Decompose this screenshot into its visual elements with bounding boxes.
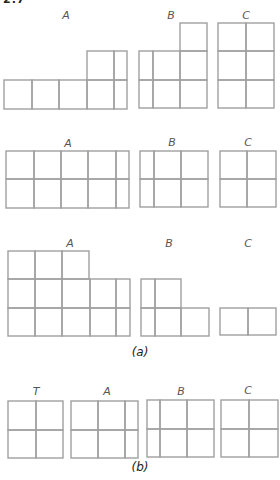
grid-cell: [61, 151, 88, 179]
figure-label: A: [63, 137, 72, 150]
grid-cell: [141, 279, 155, 308]
grid-figure-a: A: [71, 385, 138, 458]
grid-cell: [246, 80, 274, 108]
figure-label: A: [65, 237, 74, 250]
figure-label: C: [244, 384, 252, 397]
grid-cell: [35, 251, 62, 279]
grid-cell: [8, 430, 36, 458]
figure-label: C: [244, 136, 252, 149]
grid-cell: [34, 151, 61, 179]
grid-figure-c: C: [218, 9, 274, 108]
grid-figure-a: A: [8, 237, 130, 336]
grid-cell: [62, 279, 90, 308]
grid-cell: [62, 251, 89, 279]
grid-cell: [62, 308, 90, 336]
grid-cell: [154, 179, 181, 207]
grid-cell: [180, 23, 207, 51]
grid-cell: [187, 429, 214, 457]
grid-cell: [32, 80, 59, 109]
figure-label: C: [242, 9, 250, 22]
grid-cell: [220, 151, 247, 179]
grid-cell: [35, 308, 62, 336]
grid-cell: [181, 308, 209, 336]
grid-cell: [125, 430, 138, 458]
grid-cell: [98, 401, 125, 430]
grid-cell: [218, 23, 246, 51]
grid-figure-c: C: [220, 136, 276, 207]
grid-cell: [160, 400, 187, 429]
grid-cell: [140, 179, 154, 207]
grid-cell: [155, 279, 181, 308]
grid-figure-b: B: [147, 385, 214, 457]
part-a-group: ABCABCABC: [4, 9, 276, 336]
grid-cell: [249, 400, 278, 429]
figure-label: B: [177, 385, 185, 398]
figure-label: B: [165, 237, 173, 250]
grid-cell: [181, 151, 208, 179]
part-b-caption: (b): [132, 460, 149, 474]
grid-cell: [116, 151, 129, 179]
grid-cell: [187, 400, 214, 429]
grid-cell: [218, 51, 246, 80]
grid-figure-a: A: [4, 9, 127, 109]
grid-figure-a: A: [6, 137, 129, 208]
grid-cell: [88, 179, 116, 208]
grid-cell: [6, 151, 34, 179]
grid-cell: [59, 80, 87, 109]
grid-cell: [221, 429, 249, 457]
figure-label: A: [61, 9, 70, 22]
grid-cell: [35, 279, 62, 308]
grid-cell: [90, 279, 116, 308]
grid-cell: [160, 429, 187, 457]
grid-cell: [139, 51, 153, 80]
grid-cell: [71, 430, 98, 458]
grid-cell: [153, 51, 180, 80]
grid-cell: [141, 308, 155, 336]
figure-label: B: [167, 9, 175, 22]
grid-cell: [8, 279, 35, 308]
grid-cell: [147, 429, 160, 457]
grid-cell: [8, 251, 35, 279]
grid-cell: [247, 179, 276, 207]
grid-cell: [34, 179, 61, 208]
grid-cell: [36, 401, 63, 430]
grid-figure-b: B: [140, 136, 208, 207]
grid-cell: [90, 308, 116, 336]
grid-figure-c: C: [220, 237, 276, 335]
figure-label: B: [168, 136, 176, 149]
grid-cell: [8, 401, 36, 430]
grid-figure-t: T: [8, 385, 63, 458]
grid-cell: [181, 179, 208, 207]
grid-cell: [248, 308, 276, 335]
grid-cell: [246, 23, 274, 51]
grid-cell: [114, 80, 127, 109]
grid-cell: [71, 401, 98, 430]
figure-label: A: [102, 385, 111, 398]
grid-cell: [88, 151, 116, 179]
grid-cell: [8, 308, 35, 336]
grid-cell: [4, 80, 32, 109]
part-b-group: TABC: [8, 384, 278, 458]
figure-label: C: [244, 237, 252, 250]
grid-cell: [87, 80, 114, 109]
grid-cell: [153, 80, 180, 108]
grid-cell: [61, 179, 88, 208]
grid-cell: [155, 308, 181, 336]
figure-label: T: [33, 385, 41, 398]
grid-cell: [221, 400, 249, 429]
grid-figure-b: B: [141, 237, 209, 336]
grid-cell: [116, 308, 130, 336]
grid-cell: [6, 179, 34, 208]
part-a-caption: (a): [132, 345, 149, 359]
grid-figure-b: B: [139, 9, 207, 108]
grid-cell: [116, 179, 129, 208]
grid-cell: [220, 308, 248, 335]
grid-cell: [218, 80, 246, 108]
grid-cell: [116, 279, 130, 308]
grid-cell: [114, 51, 127, 80]
grid-cell: [246, 51, 274, 80]
grid-figure-c: C: [221, 384, 278, 457]
grid-cell: [147, 400, 160, 429]
grid-cell: [154, 151, 181, 179]
grid-cell: [139, 80, 153, 108]
